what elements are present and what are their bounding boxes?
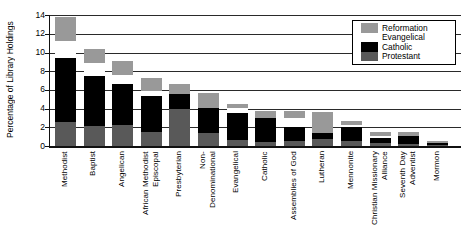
y-tick-label-0: 0 (23, 142, 45, 151)
y-tick-label-6: 6 (23, 85, 45, 94)
legend-swatch-reformation (361, 23, 378, 33)
gridline-8 (49, 71, 461, 72)
legend-label-catholic: Catholic (378, 42, 412, 52)
bar-angelican-segment-protestant (112, 125, 133, 146)
bar-evangelical-segment-evangelical (227, 108, 248, 113)
x-label-line: African Methodist (141, 151, 151, 244)
bar-angelican-segment-evangelical (112, 75, 133, 84)
legend-item-protestant: Protestant (361, 52, 455, 62)
x-label-non-denominational: Non-Denominational (198, 151, 219, 244)
x-label-line: Angelican (117, 151, 127, 244)
bar-mennonite-segment-reformation (341, 121, 362, 125)
bar-mormon-segment-catholic (427, 143, 448, 145)
bar-seventh-day-adventist-segment-catholic (398, 136, 419, 144)
x-label-evangelical: Evangelical (231, 151, 243, 244)
bar-methodist-segment-catholic (55, 58, 76, 121)
bar-mennonite-segment-catholic (341, 127, 362, 141)
y-axis-title: Percentage of Library Holdings (5, 10, 17, 150)
x-label-line: Seventh Day (398, 151, 408, 244)
bar-seventh-day-adventist-segment-reformation (398, 132, 419, 135)
x-label-line: Lutheran (317, 151, 327, 244)
legend: ReformationEvangelicalCatholicProtestant (352, 20, 456, 65)
y-axis-line (49, 15, 50, 146)
bar-lutheran-segment-reformation (312, 112, 333, 133)
legend-item-reformation: Reformation (361, 23, 455, 33)
gridline-14 (49, 15, 461, 16)
y-tick-label-14: 14 (23, 11, 45, 20)
bar-evangelical-segment-reformation (227, 104, 248, 109)
x-label-line: Christian Missionary (370, 151, 380, 244)
bar-african-methodist-episcopal-segment-protestant (141, 132, 162, 146)
legend-label-evangelical: Evangelical (378, 32, 425, 42)
bar-christian-missionary-alliance-segment-catholic (370, 138, 391, 144)
bar-methodist-segment-reformation (55, 17, 76, 42)
x-label-lutheran: Lutheran (317, 151, 329, 244)
bar-mormon-segment-reformation (427, 141, 448, 142)
legend-swatch-protestant (361, 52, 378, 62)
bar-methodist-segment-protestant (55, 122, 76, 146)
bar-baptist-segment-catholic (84, 76, 105, 126)
bar-presbyterian-segment-catholic (169, 94, 190, 109)
bar-catholic-segment-catholic (255, 118, 276, 141)
x-label-catholic: Catholic (260, 151, 272, 244)
x-label-line: Mormon (432, 151, 442, 244)
x-axis-line (49, 146, 461, 148)
x-label-line: Alliance (379, 151, 389, 244)
bar-assemblies-of-god-segment-catholic (284, 127, 305, 141)
bar-non-denominational-segment-catholic (198, 108, 219, 133)
y-tick-label-4: 4 (23, 104, 45, 113)
bar-assemblies-of-god-segment-evangelical (284, 118, 305, 127)
legend-swatch-catholic (361, 42, 378, 52)
bar-assemblies-of-god-segment-reformation (284, 111, 305, 118)
x-label-baptist: Baptist (88, 151, 100, 244)
x-label-line: Adventist (408, 151, 418, 244)
legend-label-protestant: Protestant (378, 51, 420, 61)
bar-baptist-segment-protestant (84, 126, 105, 146)
bar-christian-missionary-alliance-segment-evangelical (370, 136, 391, 138)
bar-angelican-segment-reformation (112, 61, 133, 75)
x-label-mormon: Mormon (432, 151, 444, 244)
x-label-line: Denominational (207, 151, 217, 244)
x-label-mennonite: Mennonite (346, 151, 358, 244)
bar-baptist-segment-reformation (84, 49, 105, 63)
bar-catholic-segment-reformation (255, 111, 276, 118)
bar-non-denominational-segment-protestant (198, 133, 219, 146)
bar-christian-missionary-alliance-segment-reformation (370, 132, 391, 136)
stacked-bar-chart: Percentage of Library Holdings Reformati… (0, 0, 465, 245)
y-tick-label-12: 12 (23, 29, 45, 38)
x-label-line: Mennonite (346, 151, 356, 244)
bar-lutheran-segment-catholic (312, 133, 333, 140)
x-label-line: Methodist (60, 151, 70, 244)
bar-methodist-segment-evangelical (55, 41, 76, 58)
x-label-line: Baptist (88, 151, 98, 244)
x-label-line: Catholic (260, 151, 270, 244)
y-tick-label-10: 10 (23, 48, 45, 57)
bar-african-methodist-episcopal-segment-reformation (141, 78, 162, 91)
legend-item-evangelical: Evangelical (361, 33, 455, 43)
x-label-seventh-day-adventist: Seventh DayAdventist (398, 151, 419, 244)
bar-non-denominational-segment-reformation (198, 93, 219, 108)
y-tick-label-8: 8 (23, 67, 45, 76)
x-label-methodist: Methodist (60, 151, 72, 244)
bar-mennonite-segment-evangelical (341, 125, 362, 127)
x-label-line: Evangelical (231, 151, 241, 244)
x-label-line: Episcopal (150, 151, 160, 244)
bar-presbyterian-segment-protestant (169, 109, 190, 146)
x-label-line: Presbyterian (174, 151, 184, 244)
gridline-4 (49, 109, 461, 110)
x-label-assemblies-of-god: Assemblies of God (289, 151, 301, 244)
x-label-christian-missionary-alliance: Christian MissionaryAlliance (370, 151, 391, 244)
bar-baptist-segment-evangelical (84, 63, 105, 76)
x-label-line: Non- (198, 151, 208, 244)
bar-african-methodist-episcopal-segment-catholic (141, 96, 162, 132)
x-label-line: Assemblies of God (289, 151, 299, 244)
gridline-6 (49, 90, 461, 91)
x-label-presbyterian: Presbyterian (174, 151, 186, 244)
bar-angelican-segment-catholic (112, 84, 133, 125)
bar-african-methodist-episcopal-segment-evangelical (141, 91, 162, 96)
legend-label-reformation: Reformation (378, 23, 428, 33)
bar-evangelical-segment-catholic (227, 113, 248, 140)
x-label-african-methodist-episcopal: African MethodistEpiscopal (141, 151, 162, 244)
bar-presbyterian-segment-reformation (169, 84, 190, 93)
x-label-angelican: Angelican (117, 151, 129, 244)
